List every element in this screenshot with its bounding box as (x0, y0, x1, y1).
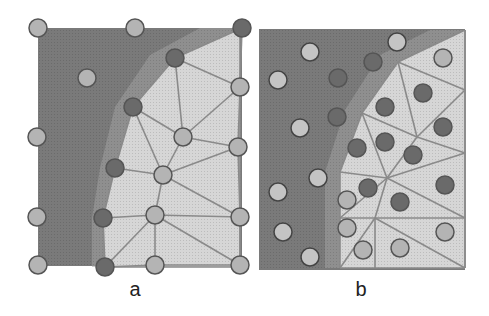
node-dark (166, 49, 184, 67)
sample-point-open (301, 43, 319, 61)
node-light (29, 256, 47, 274)
sample-point-light (354, 241, 372, 259)
sample-point-open (291, 119, 309, 137)
node-light (146, 256, 164, 274)
panel-a (28, 19, 251, 276)
node-light (229, 138, 247, 156)
panel-label-b: b (355, 278, 366, 301)
sample-point-open (301, 248, 319, 266)
node-light (126, 19, 144, 37)
node-light (154, 166, 172, 184)
node-light (174, 128, 192, 146)
panel-b (259, 29, 465, 270)
node-light (28, 208, 46, 226)
sample-point-light (338, 219, 356, 237)
node-dark (106, 159, 124, 177)
node-light (231, 256, 249, 274)
sample-point-dark (329, 69, 347, 87)
sample-point-dark (376, 98, 394, 116)
node-light (78, 69, 96, 87)
sample-point-dark (364, 53, 382, 71)
sample-point-dark (434, 118, 452, 136)
node-light (29, 19, 47, 37)
node-light (28, 128, 46, 146)
sample-point-open (269, 183, 287, 201)
sample-point-open (309, 169, 327, 187)
sample-point-dark (404, 146, 422, 164)
node-dark (233, 19, 251, 37)
node-light (231, 208, 249, 226)
sample-point-dark (436, 176, 454, 194)
sample-point-open (274, 223, 292, 241)
sample-point-light (391, 239, 409, 257)
sample-point-dark (348, 139, 366, 157)
sample-point-dark (328, 108, 346, 126)
figure-diagram (0, 0, 489, 316)
sample-point-open (388, 33, 406, 51)
panel-label-a: a (129, 278, 140, 301)
sample-point-dark (391, 193, 409, 211)
node-dark (124, 98, 142, 116)
sample-point-light (338, 191, 356, 209)
sample-point-dark (359, 179, 377, 197)
node-dark (94, 209, 112, 227)
sample-point-dark (376, 133, 394, 151)
sample-point-dark (414, 84, 432, 102)
sample-point-light (436, 223, 454, 241)
node-dark (96, 258, 114, 276)
node-light (146, 206, 164, 224)
node-light (231, 78, 249, 96)
sample-point-light (434, 49, 452, 67)
sample-point-open (269, 71, 287, 89)
